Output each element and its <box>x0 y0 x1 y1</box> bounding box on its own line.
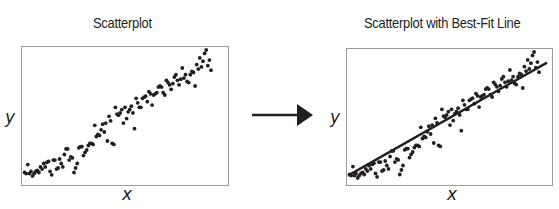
left-y-axis-label: y <box>5 107 15 127</box>
right-y-axis-label: y <box>330 107 340 127</box>
left-x-axis-label: x <box>122 184 132 204</box>
right-x-axis-label: x <box>447 184 457 204</box>
right-chart-title: Scatterplot with Best-Fit Line <box>364 14 520 31</box>
left-chart-title: Scatterplot <box>93 14 152 31</box>
left-plot-frame <box>21 46 229 186</box>
right-plot-frame <box>346 48 553 186</box>
